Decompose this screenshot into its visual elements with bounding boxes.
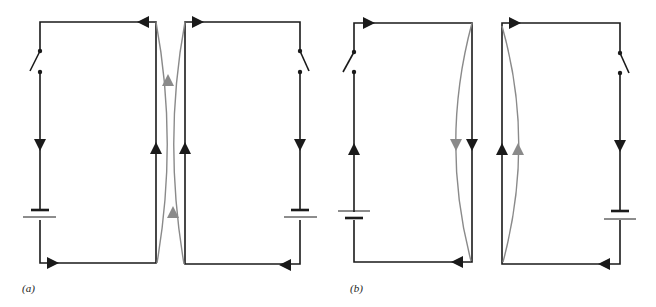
panel-b (338, 17, 636, 270)
panel-b-right-circuit (502, 23, 620, 264)
panel-a-right-battery (284, 210, 317, 217)
panel-a-current-arrows (34, 16, 306, 271)
panel-b-left-switch (343, 50, 356, 74)
arrow-down-icon (34, 139, 46, 151)
panel-b-left-battery (338, 211, 370, 218)
arrow-down-icon (294, 139, 306, 151)
panel-a-left-battery (23, 210, 56, 217)
arrow-up-icon (150, 142, 162, 154)
arrow-up-icon (512, 143, 524, 155)
panel-b-right-switch (618, 51, 629, 75)
arrow-down-icon (466, 139, 478, 151)
arrow-right-icon (363, 17, 375, 29)
panel-b-field-arrows (450, 139, 524, 155)
arrow-left-icon (451, 256, 463, 268)
arrow-up-icon (496, 143, 508, 155)
panel-b-right-battery (604, 211, 636, 219)
panel-a-left-circuit (40, 22, 156, 263)
arrow-up-icon (348, 143, 360, 155)
circuit-diagram (0, 0, 656, 307)
arrow-down-icon (450, 139, 462, 151)
arrow-down-icon (614, 140, 626, 152)
arrow-right-icon (192, 16, 204, 28)
arrow-left-icon (137, 16, 149, 28)
panel-a (23, 16, 317, 271)
arrow-right-icon (509, 17, 521, 29)
panel-a-label: (a) (22, 282, 35, 294)
panel-b-current-arrows (348, 17, 626, 270)
arrow-left-icon (598, 258, 610, 270)
panel-a-right-switch (298, 49, 309, 74)
arrow-right-icon (47, 257, 59, 269)
panel-b-label: (b) (350, 282, 363, 294)
panel-a-field-curves (156, 22, 185, 264)
panel-a-left-switch (30, 49, 42, 74)
arrow-left-icon (279, 259, 291, 271)
panel-a-right-circuit (185, 22, 300, 264)
panel-b-field-curves (456, 23, 519, 262)
arrow-up-icon (179, 142, 191, 154)
